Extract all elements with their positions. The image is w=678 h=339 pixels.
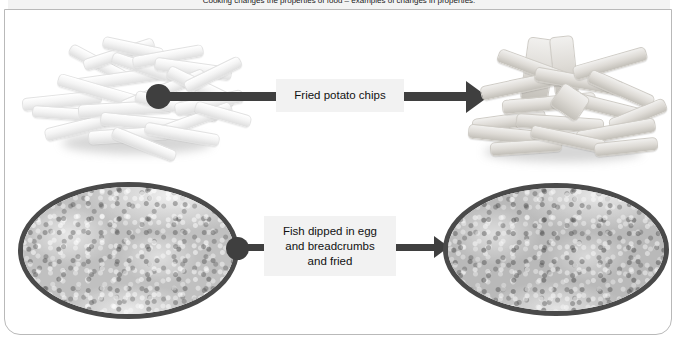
connector-line-row2-right: [396, 244, 436, 251]
process-label-line: Fish dipped in egg: [264, 224, 396, 239]
process-label-line: Fried potato chips: [276, 88, 404, 103]
fried-potato-chips-image: [468, 30, 668, 170]
process-label-fish-dipped-in-egg: Fish dipped in egg and breadcrumbs and f…: [264, 216, 396, 276]
slide-header-text: Cooking changes the properties of food –…: [8, 0, 670, 10]
slide-canvas: Cooking changes the properties of food –…: [0, 0, 678, 339]
fried-breaded-fish-image: [443, 183, 669, 316]
process-label-line: and fried: [264, 254, 396, 269]
connector-line-row1-left: [166, 92, 276, 101]
connector-line-row1-right: [404, 92, 468, 101]
fried-chips-pile: [468, 30, 668, 170]
process-label-line: and breadcrumbs: [264, 239, 396, 254]
fried-breaded-fish-photo: [446, 186, 666, 313]
raw-breaded-fish-photo: [21, 185, 236, 316]
process-label-fried-potato-chips: Fried potato chips: [276, 79, 404, 112]
connector-line-row2-left: [243, 244, 264, 251]
raw-breaded-fish-image: [18, 182, 239, 319]
